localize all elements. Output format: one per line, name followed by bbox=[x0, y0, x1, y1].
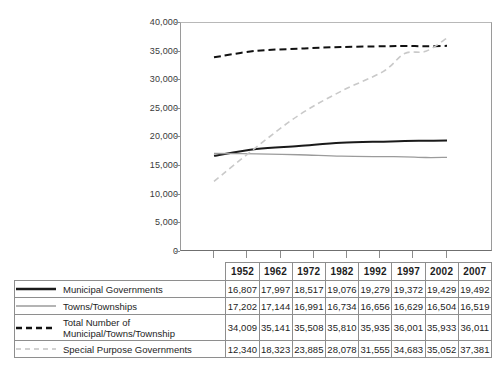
header-year: 1962 bbox=[259, 263, 292, 281]
x-tick-mark bbox=[246, 251, 247, 258]
chart-region: 40,000 35,000 30,000 25,000 20,000 15,00… bbox=[0, 0, 504, 262]
data-table: 1952 1962 1972 1982 1992 1997 2002 2007 … bbox=[14, 262, 492, 358]
y-tick-label: 40,000 bbox=[130, 18, 178, 27]
table-cell: 18,517 bbox=[292, 281, 325, 298]
y-axis: 40,000 35,000 30,000 25,000 20,000 15,00… bbox=[130, 0, 178, 262]
x-tick-mark bbox=[346, 251, 347, 258]
table-cell: 35,933 bbox=[425, 315, 458, 341]
table-cell: 19,429 bbox=[425, 281, 458, 298]
table-cell: 19,372 bbox=[392, 281, 425, 298]
table-cell: 34,683 bbox=[392, 341, 425, 358]
table-cell: 16,991 bbox=[292, 298, 325, 315]
x-tick-mark bbox=[280, 251, 281, 258]
table-cell: 34,009 bbox=[226, 315, 259, 341]
table-cell: 16,656 bbox=[359, 298, 392, 315]
table-cell: 35,052 bbox=[425, 341, 458, 358]
y-tick-label: 35,000 bbox=[130, 47, 178, 56]
legend-label: Towns/Townships bbox=[63, 301, 137, 312]
header-year: 1952 bbox=[226, 263, 259, 281]
chart-page: 40,000 35,000 30,000 25,000 20,000 15,00… bbox=[0, 0, 504, 366]
header-year: 2002 bbox=[425, 263, 458, 281]
legend-label: Total Number of Municipal/Towns/Township bbox=[63, 317, 175, 339]
table-cell: 19,279 bbox=[359, 281, 392, 298]
legend-cell: Towns/Townships bbox=[15, 298, 226, 315]
legend-cell: Total Number of Municipal/Towns/Township bbox=[15, 315, 226, 341]
table-cell: 16,519 bbox=[458, 298, 491, 315]
header-blank-cell bbox=[15, 263, 226, 281]
plot-area bbox=[180, 22, 492, 251]
legend-label: Special Purpose Governments bbox=[63, 344, 192, 355]
y-tick-label: 30,000 bbox=[130, 75, 178, 84]
series-line bbox=[214, 154, 447, 158]
header-year: 2007 bbox=[458, 263, 491, 281]
legend-line-dashed-gray-icon bbox=[15, 344, 57, 354]
x-tick-mark bbox=[213, 251, 214, 258]
legend-label: Municipal Governments bbox=[63, 284, 163, 295]
table-cell: 35,141 bbox=[259, 315, 292, 341]
table-cell: 36,001 bbox=[392, 315, 425, 341]
table-cell: 16,504 bbox=[425, 298, 458, 315]
x-tick-mark bbox=[313, 251, 314, 258]
table-cell: 17,202 bbox=[226, 298, 259, 315]
y-tick-label: 5,000 bbox=[130, 218, 178, 227]
plot-lines bbox=[181, 23, 493, 252]
table-row: Total Number of Municipal/Towns/Township… bbox=[15, 315, 492, 341]
table-cell: 35,935 bbox=[359, 315, 392, 341]
table-cell: 16,734 bbox=[325, 298, 358, 315]
series-line bbox=[214, 38, 447, 181]
legend-cell: Municipal Governments bbox=[15, 281, 226, 298]
y-tick-label: 0 bbox=[130, 247, 178, 256]
table-cell: 35,810 bbox=[325, 315, 358, 341]
y-tick-label: 20,000 bbox=[130, 132, 178, 141]
x-tick-mark bbox=[412, 251, 413, 258]
header-year: 1997 bbox=[392, 263, 425, 281]
table-cell: 17,997 bbox=[259, 281, 292, 298]
table-cell: 16,629 bbox=[392, 298, 425, 315]
table-cell: 17,144 bbox=[259, 298, 292, 315]
legend-line-dashed-black-icon bbox=[15, 323, 57, 333]
table-cell: 18,323 bbox=[259, 341, 292, 358]
table-cell: 28,078 bbox=[325, 341, 358, 358]
table-cell: 12,340 bbox=[226, 341, 259, 358]
table-cell: 36,011 bbox=[458, 315, 491, 341]
x-tick-mark bbox=[379, 251, 380, 258]
table-cell: 37,381 bbox=[458, 341, 491, 358]
table-row: Towns/Townships 17,202 17,144 16,991 16,… bbox=[15, 298, 492, 315]
y-tick-label: 10,000 bbox=[130, 190, 178, 199]
header-year: 1972 bbox=[292, 263, 325, 281]
table-cell: 35,508 bbox=[292, 315, 325, 341]
series-line bbox=[214, 46, 447, 57]
table-row: Special Purpose Governments 12,340 18,32… bbox=[15, 341, 492, 358]
header-year: 1992 bbox=[359, 263, 392, 281]
header-year: 1982 bbox=[325, 263, 358, 281]
table-cell: 19,076 bbox=[325, 281, 358, 298]
y-tick-label: 25,000 bbox=[130, 104, 178, 113]
table-cell: 23,885 bbox=[292, 341, 325, 358]
table-cell: 31,555 bbox=[359, 341, 392, 358]
table-header-row: 1952 1962 1972 1982 1992 1997 2002 2007 bbox=[15, 263, 492, 281]
legend-line-solid-black-icon bbox=[15, 284, 57, 294]
table-cell: 19,492 bbox=[458, 281, 491, 298]
table-cell: 16,807 bbox=[226, 281, 259, 298]
legend-cell: Special Purpose Governments bbox=[15, 341, 226, 358]
table-row: Municipal Governments 16,807 17,997 18,5… bbox=[15, 281, 492, 298]
y-tick-label: 15,000 bbox=[130, 161, 178, 170]
legend-line-solid-gray-icon bbox=[15, 301, 57, 311]
x-tick-mark bbox=[446, 251, 447, 258]
